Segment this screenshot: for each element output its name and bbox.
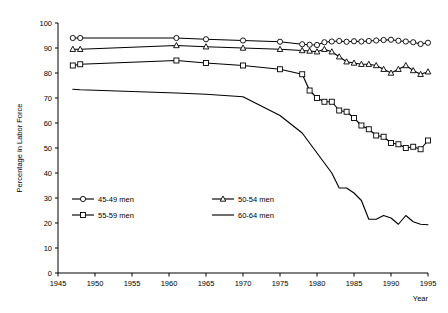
data-point-marker [329,39,334,44]
data-point-marker [241,63,246,68]
data-point-marker [203,37,208,42]
y-axis-tick-label: 10 [44,244,52,253]
data-point-marker [388,37,393,42]
data-point-marker [70,35,75,40]
y-axis-tick-label: 0 [48,269,52,278]
data-point-marker [344,59,350,64]
data-point-marker [300,42,305,47]
x-axis-tick-label: 1955 [124,279,141,288]
x-axis-tick-label: 1980 [309,279,326,288]
y-axis-tick-label: 90 [44,44,52,53]
data-point-marker [174,35,179,40]
data-point-marker [403,63,409,68]
data-point-marker [70,63,75,68]
series-line [73,46,428,75]
data-point-marker [411,40,416,45]
x-axis-tick-label: 1995 [420,279,437,288]
x-axis-tick-label: 1945 [50,279,67,288]
data-point-marker [344,109,349,114]
data-point-marker [78,62,83,67]
data-point-marker [396,142,401,147]
data-point-marker [336,54,342,59]
y-axis-title: Percentage in Labor Force [15,104,24,193]
data-point-marker [366,38,371,43]
legend-label: 55-59 men [98,211,134,220]
data-point-marker [329,99,334,104]
data-point-marker [418,147,423,152]
y-axis-tick-label: 20 [44,219,52,228]
data-point-marker [359,123,364,128]
data-point-marker [344,39,349,44]
y-axis-tick-label: 30 [44,194,52,203]
legend-label: 45-49 men [98,195,134,204]
data-point-marker [322,40,327,45]
data-point-marker [410,68,416,73]
data-point-marker [174,58,179,63]
series-45-49-men [70,35,430,47]
series-60-64-men [73,89,428,225]
legend-entry: 55-59 men [72,211,134,220]
data-point-marker [366,127,371,132]
x-axis-tick-label: 1965 [198,279,215,288]
legend-entry: 60-64 men [212,211,274,220]
legend-label: 50-54 men [238,195,274,204]
legend-label: 60-64 men [238,211,274,220]
chart-legend: 45-49 men50-54 men55-59 men60-64 men [72,195,274,220]
data-point-marker [322,99,327,104]
legend-entry: 45-49 men [72,195,134,204]
data-point-marker [300,72,305,77]
data-point-marker [418,41,423,46]
x-axis-tick-label: 1960 [161,279,178,288]
x-axis-tick-label: 1985 [346,279,363,288]
y-axis-tick-label: 50 [44,144,52,153]
data-point-marker [278,67,283,72]
data-point-marker [403,39,408,44]
data-point-marker [277,39,282,44]
data-point-marker [240,38,245,43]
y-axis-tick-label: 60 [44,119,52,128]
data-point-marker [426,138,431,143]
series-55-59-men [70,58,430,152]
data-point-marker [374,133,379,138]
axes: 0102030405060708090100194519501955196019… [39,19,436,288]
y-axis-tick-label: 40 [44,169,52,178]
legend-swatch-marker [81,213,86,218]
x-axis-tick-label: 1975 [272,279,289,288]
data-point-marker [78,35,83,40]
x-axis-tick-label: 1990 [383,279,400,288]
data-point-marker [381,134,386,139]
data-point-marker [374,38,379,43]
x-axis-tick-label: 1970 [235,279,252,288]
data-point-marker [307,42,312,47]
x-axis-title: Year [413,294,429,303]
data-point-marker [389,141,394,146]
data-point-marker [315,96,320,101]
data-point-marker [204,61,209,66]
data-point-marker [322,46,328,51]
series-50-54-men [70,43,431,77]
legend-swatch-marker [80,196,85,201]
data-point-marker [411,144,416,149]
y-axis-tick-label: 70 [44,94,52,103]
y-axis-tick-label: 80 [44,69,52,78]
data-point-marker [307,88,312,93]
data-point-marker [314,42,319,47]
legend-entry: 50-54 men [212,195,274,204]
data-point-marker [381,37,386,42]
data-point-marker [337,38,342,43]
data-point-marker [351,39,356,44]
data-point-marker [352,116,357,121]
labor-force-line-chart: 0102030405060708090100194519501955196019… [0,0,448,313]
data-point-marker [425,69,431,74]
data-point-marker [396,38,401,43]
series-line [73,89,428,225]
data-point-marker [337,108,342,113]
x-axis-tick-label: 1950 [87,279,104,288]
chart-container: 0102030405060708090100194519501955196019… [0,0,448,313]
data-point-marker [425,40,430,45]
y-axis-tick-label: 100 [39,19,52,28]
data-point-marker [359,39,364,44]
data-point-marker [403,146,408,151]
